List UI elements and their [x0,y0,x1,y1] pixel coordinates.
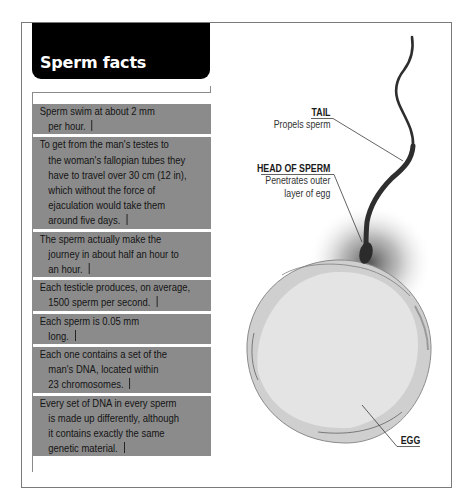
head-label: HEAD OF SPERM Penetrates outer layer of … [247,163,330,200]
head-label-desc: layer of egg [257,188,330,201]
head-label-title: HEAD OF SPERM [257,163,330,175]
head-label-desc: Penetrates outer [257,175,330,188]
egg-label: EGG [398,435,420,447]
tail-label-desc: Propels sperm [273,119,330,132]
egg-label-title: EGG [400,435,420,447]
tail-leader [333,119,403,162]
tail-label: TAIL Propels sperm [266,107,330,132]
sperm-egg-illustration [0,0,473,498]
tail-label-title: TAIL [273,107,330,119]
egg-icon [247,260,431,443]
